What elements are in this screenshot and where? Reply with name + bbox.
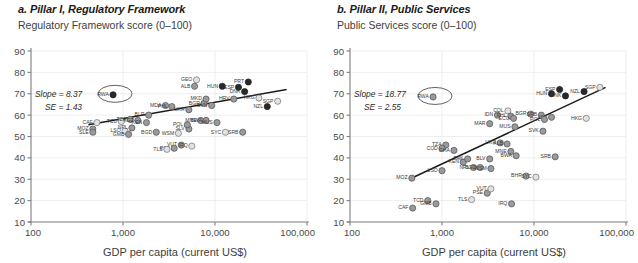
data-point: [125, 131, 131, 137]
data-point: [146, 112, 152, 118]
data-point-label: PHL: [158, 103, 168, 109]
data-point-label: SVN: [197, 102, 208, 108]
data-point: [240, 129, 246, 135]
data-point-label: BGR: [515, 110, 526, 116]
data-point-label: BWA: [501, 152, 513, 158]
data-point-label: SLE: [79, 129, 89, 135]
data-point: [110, 92, 116, 98]
data-point: [540, 128, 546, 134]
data-point-label: SVK: [529, 127, 540, 133]
data-point: [143, 120, 149, 126]
data-point: [512, 124, 518, 130]
data-point: [191, 83, 197, 89]
data-point-label: SGP: [585, 84, 596, 90]
data-point-label: TLS: [458, 196, 468, 202]
data-point: [451, 147, 457, 153]
data-point: [488, 186, 494, 192]
y-tick-label: 70: [14, 88, 25, 99]
y-tick-label: 20: [14, 195, 25, 206]
data-point-label: PRT: [234, 78, 244, 84]
data-point: [469, 196, 475, 202]
data-point-label: RWA: [97, 91, 109, 97]
data-point: [164, 146, 170, 152]
data-point: [504, 141, 510, 147]
data-point: [171, 145, 177, 151]
data-point-label: ALB: [181, 83, 191, 89]
data-point-label: IDN: [484, 111, 493, 117]
data-point: [508, 201, 514, 207]
data-point: [214, 120, 220, 126]
y-tick-label: 50: [333, 131, 344, 142]
slope-annotation: Slope = 8.37: [35, 89, 83, 99]
data-point: [562, 93, 568, 99]
data-point-label: BLV: [476, 155, 486, 161]
data-point-label: COD: [426, 145, 438, 151]
x-axis-title: GDP per capita (current US$): [103, 246, 247, 258]
y-tick-label: 60: [333, 110, 344, 121]
data-point: [193, 77, 199, 83]
x-tick-label: 10,000: [200, 227, 229, 238]
data-point-label: IRQ: [498, 200, 507, 206]
data-point-label: RWA: [417, 93, 429, 99]
data-point-label: MAR: [474, 120, 486, 126]
trend-line: [409, 87, 605, 179]
data-point-label: GMB: [113, 131, 125, 137]
data-point-label: CAF: [398, 204, 408, 210]
data-point-label: DNK: [230, 88, 241, 94]
data-point: [597, 84, 603, 90]
panel-a: a. Pillar I, Regulatory Framework Regula…: [0, 0, 319, 263]
data-point: [256, 95, 262, 101]
data-point: [184, 122, 190, 128]
y-tick-label: 10: [333, 217, 344, 228]
data-point: [433, 201, 439, 207]
data-point-label: SRB: [541, 153, 552, 159]
data-point-label: NZL: [570, 88, 580, 94]
y-tick-label: 50: [14, 131, 25, 142]
data-point-label: DNK: [551, 92, 562, 98]
data-point-label: GHA: [439, 147, 451, 153]
y-tick-label: 80: [333, 67, 344, 78]
data-point: [488, 165, 494, 171]
data-point: [583, 115, 589, 121]
data-point-label: HKG: [571, 115, 582, 121]
y-tick-label: 20: [333, 195, 344, 206]
data-point: [439, 168, 445, 174]
data-point-label: SYC: [521, 173, 532, 179]
data-point-label: ALB: [493, 140, 503, 146]
data-point: [209, 102, 215, 108]
data-point: [430, 94, 436, 100]
data-point-label: SRB: [228, 129, 239, 135]
data-point: [94, 120, 100, 126]
y-tick-label: 70: [333, 88, 344, 99]
data-point-label: MUS: [499, 123, 511, 129]
x-tick-label: 100,000: [599, 227, 634, 238]
data-point: [513, 153, 519, 159]
y-tick-label: 60: [14, 110, 25, 121]
data-point-label: HUN: [207, 83, 218, 89]
data-point: [129, 125, 135, 131]
data-point-label: SGP: [263, 98, 274, 104]
y-tick-label: 40: [14, 152, 25, 163]
y-tick-label: 80: [14, 67, 25, 78]
data-point-label: NZL: [253, 103, 263, 109]
data-point: [410, 205, 416, 211]
data-point: [90, 129, 96, 135]
data-point-label: ESP: [545, 86, 556, 92]
data-point-label: HRV: [219, 95, 230, 101]
data-point-label: CAF: [82, 119, 92, 125]
data-point: [487, 156, 493, 162]
se-annotation: SE = 2.55: [364, 102, 401, 112]
y-tick-label: 10: [14, 217, 25, 228]
data-point: [203, 96, 209, 102]
data-point: [264, 103, 270, 109]
x-tick-label: 100,000: [280, 227, 315, 238]
data-point-label: WSM: [474, 165, 486, 171]
data-point-label: POL: [173, 121, 183, 127]
y-tick-label: 30: [14, 174, 25, 185]
x-tick-label: 1,000: [430, 227, 454, 238]
data-point-label: IRQ: [179, 142, 188, 148]
data-point-label: SYC: [211, 129, 222, 135]
data-point: [533, 174, 539, 180]
data-point-label: WSM: [162, 130, 174, 136]
plot-group: 1020304050607080901001,00010,000100,000G…: [14, 46, 315, 258]
